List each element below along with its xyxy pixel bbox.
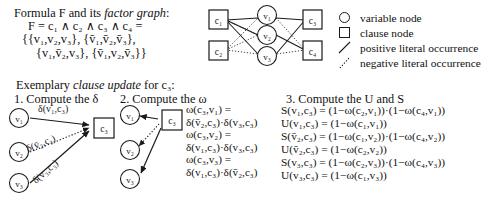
exemplary-prefix: Exemplary	[16, 78, 73, 92]
step1-variable-node-v3[interactable]: v₃	[10, 174, 29, 193]
formula-title-italic: factor graph	[104, 6, 166, 20]
step3-equation-line: S(v̄₂,c₃) = (1−ω(c₁,v₂))·(1−ω(c₄,v₂))	[281, 130, 491, 143]
factor-graph-variable-node-v2[interactable]: v₂	[258, 26, 277, 45]
step1-edge-label-v3: δ(v₃,c₃)	[30, 157, 61, 186]
formula-title: Formula F and its factor graph:	[14, 6, 214, 20]
square-icon	[336, 26, 356, 40]
clause-node-c1-label: c₁	[215, 16, 223, 26]
step3-equation-line: S(v₁,c₃) = (1−ω(c₂,v₁))·(1−ω(c₄,v₁))	[281, 104, 491, 117]
exemplary-heading: Exemplary clause update for c₃:	[16, 78, 175, 93]
step3-equation-line: U(v̄₂,c₃) = (1−ω(c₂,v₂))	[281, 143, 491, 156]
legend-label-variable-node: variable node	[360, 12, 422, 24]
step2-equation-line: ω(c₃,v₁) =	[186, 103, 286, 116]
circle-icon	[336, 11, 356, 25]
formula-title-suffix: :	[166, 6, 169, 20]
step2-omega-diagram: v₁ v₂ v₃ c₃	[114, 102, 188, 198]
clause-node-c2-label: c₂	[215, 47, 223, 57]
step1-edge-v1-c3	[30, 118, 89, 125]
step1-v2-label: v₂	[15, 148, 23, 158]
factor-graph-variable-node-v1[interactable]: v₁	[258, 6, 277, 25]
step2-edge-c3-v3	[141, 128, 161, 173]
step2-equations: ω(c₃,v₁) = δ(v̄₂,c₃)·δ(v₃,c₃) ω(c₃,v₂) =…	[186, 103, 286, 179]
step2-v1-label: v₁	[126, 111, 134, 121]
step2-equation-line: δ(v₁,c₃)·δ(v̄₂,c₃)	[186, 166, 286, 179]
variable-node-v2-label: v₂	[263, 31, 271, 41]
legend-item-negative-literal: negative literal occurrence	[336, 55, 491, 70]
step2-equation-line: ω(c₃,v₂) =	[186, 128, 286, 141]
clause-node-c3-label: c₃	[309, 16, 317, 26]
solid-line-icon	[336, 41, 356, 55]
factor-graph-clause-node-c2[interactable]: c₂	[209, 41, 228, 60]
step1-v1-label: v₁	[15, 114, 23, 124]
exemplary-italic: clause update	[73, 78, 141, 92]
step3-equation-line: U(v₃,c₃) = (1−ω(c₁,v₃))	[281, 169, 491, 182]
step1-clause-node-c3[interactable]: c₃	[94, 118, 114, 138]
step2-c3-label: c₃	[168, 116, 176, 126]
step2-variable-node-v3[interactable]: v₃	[121, 170, 140, 189]
legend-item-variable-node: variable node	[336, 10, 491, 25]
formula-line-1: F = c₁ ∧ c₂ ∧ c₃ ∧ c₄ =	[14, 20, 214, 33]
step2-equation-line: δ(v₁,c₃)·δ(v₃,c₃)	[186, 141, 286, 154]
legend-item-positive-literal: positive literal occurrence	[336, 40, 491, 55]
step1-variable-node-v1[interactable]: v₁	[10, 109, 29, 128]
step2-variable-node-v1[interactable]: v₁	[121, 106, 140, 125]
step1-edge-label-v2: δ(v̄₂,c₃)	[25, 132, 58, 154]
factor-graph-diagram: c₁ c₂ c₃ c₄ v₁ v₂ v₃	[206, 2, 326, 74]
legend: variable node clause node positive liter…	[336, 10, 491, 70]
step2-equation-line: ω(c₃,v₃) =	[186, 153, 286, 166]
variable-node-v3-label: v₃	[263, 52, 271, 62]
clause-node-c4-label: c₄	[309, 47, 317, 57]
step2-v3-label: v₃	[126, 175, 134, 185]
step3-equation-line: U(v₁,c₃) = (1−ω(c₁,v₁))	[281, 117, 491, 130]
step3-equation-line: S(v₃,c₃) = (1−ω(c₂,v₃))·(1−ω(c₄,v₃))	[281, 156, 491, 169]
dotted-line-icon	[336, 56, 356, 70]
step2-equation-line: δ(v̄₂,c₃)·δ(v₃,c₃)	[186, 116, 286, 129]
step2-v2-label: v₂	[126, 146, 134, 156]
factor-graph-clause-node-c1[interactable]: c₁	[209, 10, 228, 29]
legend-item-clause-node: clause node	[336, 25, 491, 40]
factor-graph-variable-node-v3[interactable]: v₃	[258, 47, 277, 66]
step1-v3-label: v₃	[15, 179, 23, 189]
step1-c3-label: c₃	[100, 124, 108, 134]
step2-edge-c3-v2	[139, 124, 159, 146]
step2-edge-c3-v1	[140, 116, 158, 119]
exemplary-suffix: for c₃:	[141, 78, 175, 92]
formula-line-2: {{v₁,v₂,v₃}, {v̄₁,v̄₂,v̄₃},	[14, 33, 214, 46]
legend-label-positive-literal: positive literal occurrence	[360, 42, 478, 54]
legend-label-negative-literal: negative literal occurrence	[360, 57, 481, 69]
step3-equations: S(v₁,c₃) = (1−ω(c₂,v₁))·(1−ω(c₄,v₁)) U(v…	[281, 104, 491, 181]
formula-line-3: {v₁,v̄₂,v₃}, {v̄₁,v₂,v̄₃}}	[14, 47, 214, 60]
step2-variable-node-v2[interactable]: v₂	[121, 141, 140, 160]
step1-edge-label-v1: δ(v₁,c₃)	[38, 103, 68, 115]
legend-label-clause-node: clause node	[360, 27, 413, 39]
step1-delta-diagram: v₁ v₂ v₃ c₃ δ(v₁,c₃) δ(v̄₂,c₃) δ(v₃,c₃)	[2, 102, 120, 198]
formula-block: Formula F and its factor graph: F = c₁ ∧…	[14, 6, 214, 60]
formula-title-prefix: Formula F and its	[14, 6, 104, 20]
factor-graph-clause-node-c3[interactable]: c₃	[303, 10, 322, 29]
variable-node-v1-label: v₁	[263, 11, 271, 21]
step2-clause-node-c3[interactable]: c₃	[162, 110, 182, 130]
factor-graph-clause-node-c4[interactable]: c₄	[303, 41, 322, 60]
